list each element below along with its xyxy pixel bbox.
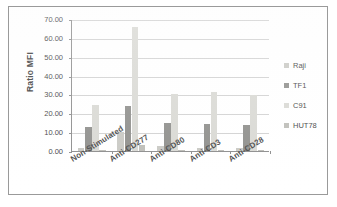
legend-swatch-icon xyxy=(284,103,289,108)
bar-hut78-anti-cd28 xyxy=(258,150,265,151)
chart-frame: Ratio MFI 70.0060.0050.0040.0030.0020.00… xyxy=(8,6,328,195)
bar-group xyxy=(191,20,231,151)
legend-item-tf1[interactable]: TF1 xyxy=(284,77,332,93)
bar-hut78-anti-cd80 xyxy=(178,150,185,151)
legend-swatch-icon xyxy=(284,63,289,68)
y-tick-label: 40.00 xyxy=(23,73,63,81)
bar-hut78-non-stimulated xyxy=(99,150,106,151)
bar-group xyxy=(151,20,191,151)
screenshot-root: Ratio MFI 70.0060.0050.0040.0030.0020.00… xyxy=(0,0,337,207)
legend-item-raji[interactable]: Raji xyxy=(284,57,332,73)
legend-item-hut78[interactable]: HUT78 xyxy=(284,117,332,133)
bar-series-layer xyxy=(72,20,269,151)
y-tick-label: 70.00 xyxy=(23,16,63,24)
legend-label: Raji xyxy=(293,61,306,70)
x-tick-mark xyxy=(270,151,271,154)
bar-hut78-anti-cd3 xyxy=(218,150,225,151)
chart-legend: RajiTF1C91HUT78 xyxy=(284,57,332,137)
legend-swatch-icon xyxy=(284,83,289,88)
legend-label: C91 xyxy=(293,101,307,110)
y-tick-label: 50.00 xyxy=(23,54,63,62)
y-tick-label: 60.00 xyxy=(23,35,63,43)
bar-c91-anti-cd277 xyxy=(132,27,139,151)
legend-swatch-icon xyxy=(284,123,289,128)
y-tick-label: 30.00 xyxy=(23,91,63,99)
legend-item-c91[interactable]: C91 xyxy=(284,97,332,113)
y-tick-label: 10.00 xyxy=(23,129,63,137)
legend-label: TF1 xyxy=(293,81,306,90)
bar-group xyxy=(72,20,112,151)
legend-label: HUT78 xyxy=(293,121,317,130)
bar-group xyxy=(230,20,270,151)
y-tick-label: 20.00 xyxy=(23,110,63,118)
y-tick-label: 0.00 xyxy=(23,148,63,156)
plot-area xyxy=(71,20,269,152)
